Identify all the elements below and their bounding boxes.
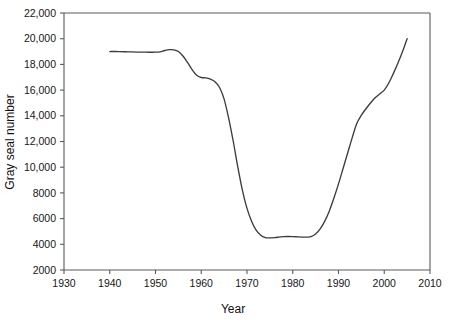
y-axis-title: Gray seal number (3, 94, 17, 189)
data-series-line (110, 39, 407, 238)
y-tick-label: 14,000 (24, 109, 56, 121)
x-axis-title: Year (221, 302, 245, 316)
line-chart: 200040006000800010,00012,00014,00016,000… (0, 0, 450, 323)
chart-figure: 200040006000800010,00012,00014,00016,000… (0, 0, 450, 323)
y-tick-label: 12,000 (24, 135, 56, 147)
x-tick-label: 1960 (190, 277, 214, 289)
y-tick-label: 4000 (33, 238, 57, 250)
y-axis-ticks: 200040006000800010,00012,00014,00016,000… (24, 7, 64, 276)
x-tick-label: 1990 (327, 277, 351, 289)
x-tick-label: 2010 (418, 277, 442, 289)
y-tick-label: 20,000 (24, 32, 56, 44)
x-tick-label: 2000 (373, 277, 397, 289)
y-tick-label: 2000 (33, 264, 57, 276)
x-tick-label: 1950 (144, 277, 168, 289)
x-tick-label: 1940 (98, 277, 122, 289)
x-tick-label: 1980 (281, 277, 305, 289)
x-axis-ticks: 193019401950196019701980199020002010 (52, 270, 442, 289)
y-tick-label: 16,000 (24, 84, 56, 96)
y-tick-label: 22,000 (24, 7, 56, 19)
x-tick-label: 1970 (235, 277, 259, 289)
x-tick-label: 1930 (52, 277, 76, 289)
y-tick-label: 10,000 (24, 161, 56, 173)
y-tick-label: 6000 (33, 212, 57, 224)
y-tick-label: 8000 (33, 187, 57, 199)
y-tick-label: 18,000 (24, 58, 56, 70)
